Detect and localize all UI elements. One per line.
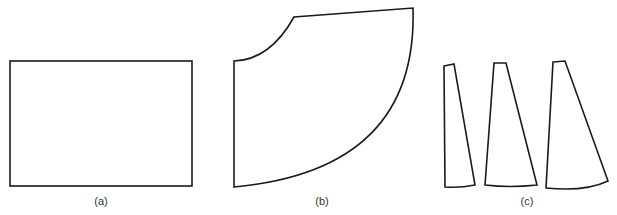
panel-a-label: (a) — [94, 195, 107, 207]
panel-c-gore-1 — [444, 64, 475, 187]
panel-c-label: (c) — [521, 195, 534, 207]
diagram-canvas — [0, 0, 617, 215]
panel-c-gore-3 — [546, 61, 608, 189]
panel-b-label: (b) — [315, 195, 328, 207]
panel-b-sector — [234, 8, 413, 187]
panel-c-gore-2 — [485, 63, 537, 187]
panel-a-rectangle — [10, 61, 192, 186]
